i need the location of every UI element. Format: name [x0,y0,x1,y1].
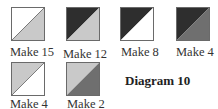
block-label-5: Make 4 [10,97,48,109]
hst-block-6 [66,62,100,96]
hst-block-1 [11,7,45,41]
hst-block-4 [176,7,210,41]
block-label-2: Make 12 [63,47,107,61]
block-label-3: Make 8 [121,45,159,59]
hst-block-3 [120,7,154,41]
block-label-6: Make 2 [67,97,105,109]
diagram-title: Diagram 10 [125,73,190,89]
block-label-4: Make 4 [176,45,214,59]
hst-block-5 [11,62,45,96]
block-label-1: Make 15 [10,45,54,59]
hst-block-2 [66,7,100,41]
